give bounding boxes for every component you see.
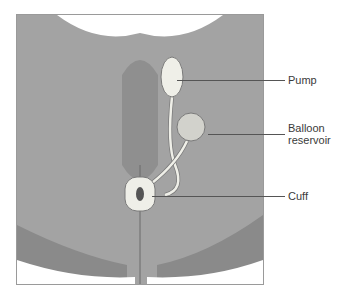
balloon-label-line2: reservoir — [288, 134, 331, 146]
pump-label-text: Pump — [288, 74, 317, 86]
device-illustration — [17, 15, 263, 284]
balloon-label-line1: Balloon — [288, 122, 331, 134]
balloon-reservoir-label: Balloon reservoir — [288, 122, 331, 146]
cuff-leader-line — [152, 196, 285, 197]
balloon-leader-line — [208, 134, 285, 135]
pump-label: Pump — [288, 74, 317, 86]
balloon-reservoir-shape — [177, 113, 205, 141]
pump-shape — [161, 57, 183, 97]
cuff-label: Cuff — [288, 190, 308, 202]
pump-leader-line — [177, 80, 285, 81]
cuff-label-text: Cuff — [288, 190, 308, 202]
illustration-frame — [16, 14, 264, 285]
